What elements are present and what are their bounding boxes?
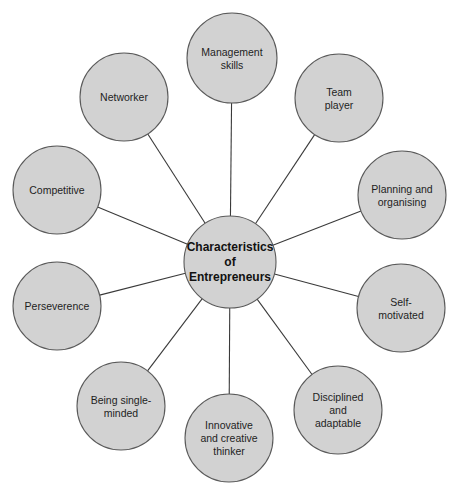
connector-competitive [98, 207, 188, 244]
node-label: and creative [200, 432, 257, 444]
node-label: Networker [100, 91, 148, 103]
node-label: and [329, 404, 347, 416]
node-label: Perseverence [25, 300, 90, 312]
node-label: Disciplined [313, 391, 364, 403]
connector-planning-and-organising [273, 211, 361, 245]
node-label: thinker [213, 445, 245, 457]
node-label: minded [104, 407, 139, 419]
connector-team-player [255, 135, 314, 224]
node-label: Management [201, 46, 262, 58]
node-label: motivated [378, 309, 424, 321]
center-label: Entrepreneurs [189, 270, 271, 284]
node-competitive: Competitive [13, 146, 101, 234]
connector-disciplined-and-adaptable [257, 299, 312, 374]
connector-management-skills [230, 103, 231, 216]
node-label: Planning and [371, 183, 432, 195]
connector-perseverence [100, 273, 186, 295]
node-label: Self- [390, 296, 412, 308]
connector-networker [148, 134, 205, 223]
center-label: of [224, 255, 236, 269]
node-team-player: Teamplayer [295, 54, 383, 142]
node-label: player [325, 99, 354, 111]
node-label: Team [326, 86, 352, 98]
node-label: organising [378, 196, 427, 208]
node-label: skills [221, 59, 244, 71]
node-being-single-minded: Being single-minded [77, 362, 165, 450]
node-networker: Networker [80, 53, 168, 141]
node-label: Competitive [29, 184, 85, 196]
node-management-skills: Managementskills [187, 13, 277, 103]
node-label: Being single- [91, 394, 152, 406]
connector-self-motivated [274, 274, 358, 297]
connector-being-single-minded [148, 299, 203, 371]
node-planning-and-organising: Planning andorganising [358, 151, 446, 239]
node-self-motivated: Self-motivated [357, 264, 445, 352]
entrepreneur-characteristics-diagram: ManagementskillsTeamplayerPlanning andor… [0, 0, 460, 496]
node-disciplined-and-adaptable: Disciplinedandadaptable [294, 366, 382, 454]
node-perseverence: Perseverence [13, 262, 101, 350]
node-innovative-and-creative-thinker: Innovativeand creativethinker [185, 394, 273, 482]
node-label: Innovative [205, 419, 253, 431]
center-node: CharacteristicsofEntrepreneurs [184, 216, 276, 308]
node-label: adaptable [315, 417, 361, 429]
center-label: Characteristics [187, 240, 274, 254]
